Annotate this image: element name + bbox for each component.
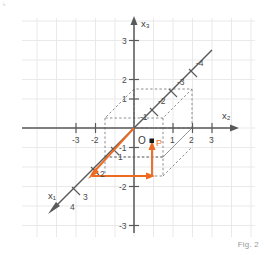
tick-x1-pos2: 2	[100, 169, 105, 179]
guide-box-dashed	[105, 89, 192, 176]
point-p-marker	[150, 139, 155, 144]
tick-x1-neg1: -1	[140, 112, 148, 122]
tick-x3-neg3: -3	[119, 221, 127, 231]
axis-x1-label: x₁	[48, 190, 56, 201]
axis-x3-label: x₃	[141, 18, 150, 29]
tick-x3-pos3: 3	[122, 36, 127, 46]
tick-x1-neg3: -3	[177, 77, 185, 87]
point-p-label: P	[156, 138, 162, 148]
axis-x2-label: x₂	[222, 110, 231, 121]
tick-x1-neg4: -4	[196, 58, 204, 68]
tick-x3-pos1: 1	[122, 94, 127, 104]
figure-container: ↳	[0, 0, 265, 255]
tick-x1-pos3: 3	[83, 192, 88, 202]
tick-x2-neg3: -3	[72, 135, 80, 145]
x2-arrowhead	[230, 125, 239, 132]
tick-x1-neg2: -2	[158, 96, 166, 106]
tick-x3-neg1: -1	[119, 143, 127, 153]
tick-marks	[76, 41, 212, 226]
axis-lines	[22, 22, 233, 233]
tick-x2-pos2: 2	[189, 135, 194, 145]
origin-label: O	[138, 135, 146, 146]
tick-x3-neg2: -2	[119, 182, 127, 192]
tick-x1-pos1: 1	[118, 152, 123, 162]
figure-caption: Fig. 2	[238, 240, 259, 249]
coordinate-diagram: -3 -2 1 2 3 1 2 3 -1 -2 -3 1 2 3 4 -1 -2…	[0, 0, 265, 255]
tick-x2-pos3: 3	[209, 135, 214, 145]
tick-x1-pos4: 4	[70, 202, 75, 212]
tick-x2-neg2: -2	[91, 135, 99, 145]
tick-x2-pos1: 1	[170, 135, 175, 145]
x3-arrowhead	[131, 16, 138, 25]
tick-x3-pos2: 2	[122, 75, 127, 85]
